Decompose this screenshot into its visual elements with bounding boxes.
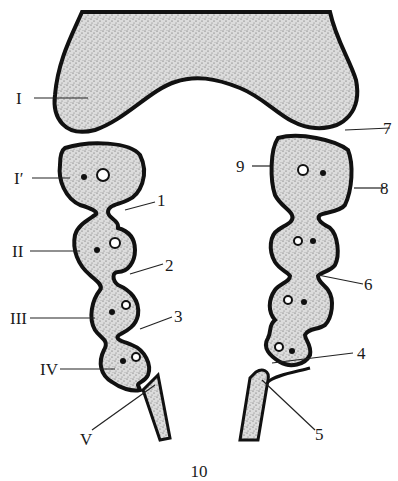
label-III: III — [10, 310, 27, 327]
label-5: 5 — [315, 426, 324, 443]
lumen-I-prime — [97, 169, 109, 181]
label-1: 1 — [157, 192, 166, 209]
left-chain — [60, 143, 170, 440]
label-II: II — [12, 243, 23, 260]
figure-number: 10 — [191, 462, 208, 481]
label-4: 4 — [357, 345, 366, 362]
label-V: V — [80, 431, 92, 448]
right-chain — [240, 136, 352, 440]
label-3: 3 — [174, 308, 183, 325]
lumen-lower — [284, 296, 292, 304]
label-2: 2 — [165, 257, 174, 274]
diagram-figure — [0, 0, 398, 481]
lumen-III — [122, 301, 130, 309]
label-8: 8 — [380, 180, 389, 197]
label-I-prime: I′ — [14, 170, 23, 187]
label-IV: IV — [40, 361, 58, 378]
lumen-bottom — [275, 343, 283, 351]
label-9: 9 — [236, 158, 245, 175]
lumen-IV — [132, 353, 140, 361]
segment-V — [143, 375, 170, 440]
label-7: 7 — [383, 120, 392, 137]
segment-5 — [240, 370, 268, 440]
lumen-upper — [294, 237, 302, 245]
segment-I — [55, 12, 358, 132]
label-6: 6 — [364, 276, 373, 293]
lumen-II — [110, 238, 120, 248]
lumen-9 — [298, 165, 308, 175]
label-I: I — [16, 90, 22, 107]
